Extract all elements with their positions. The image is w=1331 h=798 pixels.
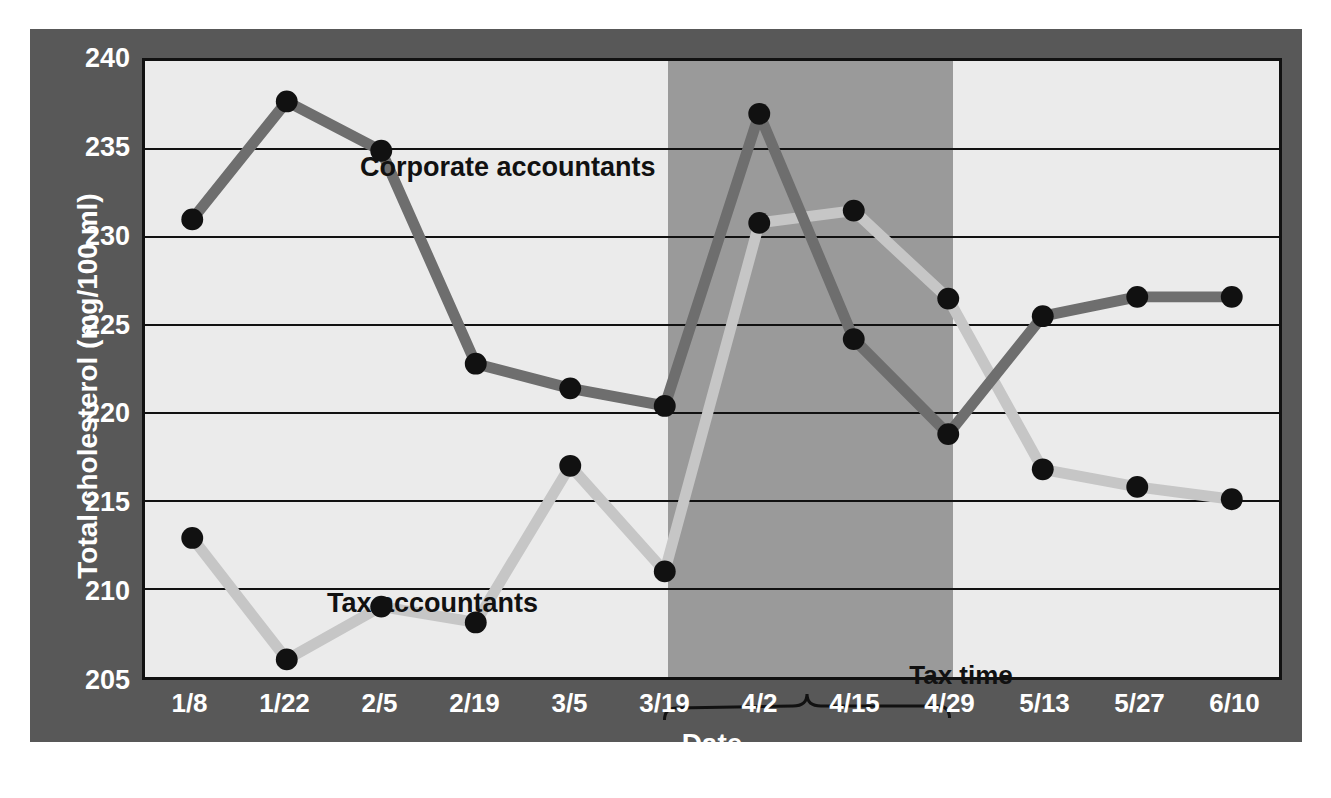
x-tick-label: 1/8	[171, 688, 207, 719]
data-point	[181, 209, 203, 231]
x-tick-label: 4/15	[829, 688, 880, 719]
data-point	[559, 455, 581, 477]
data-point	[1032, 458, 1054, 480]
y-axis-ticks: 240235230225220215210205	[52, 58, 130, 680]
data-point	[843, 328, 865, 350]
data-point	[843, 200, 865, 222]
x-tick-label: 5/13	[1019, 688, 1070, 719]
chart-figure: Total cholesterol (mg/100 ml) 2402352302…	[0, 0, 1331, 798]
data-point	[748, 103, 770, 125]
y-tick-label: 220	[85, 398, 130, 429]
y-tick-label: 210	[85, 576, 130, 607]
data-point	[748, 212, 770, 234]
data-point	[465, 353, 487, 375]
data-point	[181, 527, 203, 549]
data-point	[276, 649, 298, 671]
x-tick-label: 6/10	[1209, 688, 1260, 719]
data-point	[1126, 476, 1148, 498]
plot-inner	[145, 61, 1279, 677]
y-tick-label: 240	[85, 43, 130, 74]
y-tick-label: 205	[85, 665, 130, 696]
tax-time-label: Tax time	[815, 660, 1107, 691]
series-label-tax: Tax accountants	[327, 588, 538, 619]
data-point	[937, 423, 959, 445]
data-point	[654, 395, 676, 417]
y-tick-label: 215	[85, 487, 130, 518]
x-tick-label: 1/22	[259, 688, 310, 719]
x-axis-ticks: 1/81/222/52/193/53/194/24/154/295/135/27…	[142, 688, 1282, 724]
y-tick-label: 230	[85, 220, 130, 251]
x-tick-label: 2/19	[449, 688, 500, 719]
data-point	[1126, 286, 1148, 308]
x-tick-label: 4/2	[741, 688, 777, 719]
data-point	[1221, 286, 1243, 308]
data-series-layer	[145, 61, 1279, 677]
x-axis-title: Date	[142, 728, 1282, 760]
data-point	[559, 377, 581, 399]
data-point	[654, 561, 676, 583]
x-tick-label: 3/5	[551, 688, 587, 719]
data-point	[1221, 488, 1243, 510]
x-tick-label: 2/5	[361, 688, 397, 719]
plot-area-wrapper: Corporate accountants Tax accountants Ta…	[142, 58, 1282, 680]
y-tick-label: 235	[85, 131, 130, 162]
series-label-corporate: Corporate accountants	[360, 152, 656, 183]
plot-area	[142, 58, 1282, 680]
x-tick-label: 3/19	[639, 688, 690, 719]
y-tick-label: 225	[85, 309, 130, 340]
data-point	[937, 288, 959, 310]
x-tick-label: 4/29	[924, 688, 975, 719]
data-point	[1032, 305, 1054, 327]
data-point	[276, 91, 298, 113]
x-tick-label: 5/27	[1114, 688, 1165, 719]
